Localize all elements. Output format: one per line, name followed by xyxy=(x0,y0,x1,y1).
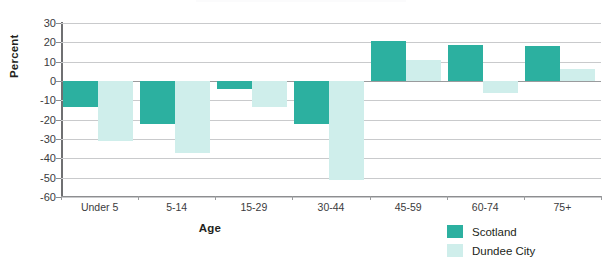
bar-scotland-60-74 xyxy=(448,45,483,81)
x-axis-label-5-14: 5-14 xyxy=(166,201,187,213)
legend-item-scotland: Scotland xyxy=(447,222,535,241)
bar-dundee-city-60-74 xyxy=(483,81,518,93)
y-tick-label-20: 20 xyxy=(4,36,56,48)
y-tick-label-10: 10 xyxy=(4,56,56,68)
x-axis-label-15-29: 15-29 xyxy=(240,201,267,213)
bar-scotland-5-14 xyxy=(140,81,175,124)
bar-dundee-city-45-59 xyxy=(406,60,441,81)
y-tick-label--30: -30 xyxy=(4,133,56,145)
x-tick-mark-6 xyxy=(524,196,525,200)
bar-scotland-75+ xyxy=(525,46,560,81)
y-tick-label-30: 30 xyxy=(4,17,56,29)
bar-scotland-15-29 xyxy=(217,81,252,89)
x-axis-label-45-59: 45-59 xyxy=(395,201,422,213)
bar-dundee-city-under-5 xyxy=(98,81,133,141)
bar-dundee-city-15-29 xyxy=(252,81,287,107)
y-tick-label-0: 0 xyxy=(4,75,56,87)
x-axis-label-60-74: 60-74 xyxy=(472,201,499,213)
y-tick-label--50: -50 xyxy=(4,172,56,184)
chart-legend: Scotland Dundee City xyxy=(447,222,535,260)
x-axis-label-under-5: Under 5 xyxy=(81,201,118,213)
plot-area xyxy=(61,23,601,197)
x-tick-mark-4 xyxy=(370,196,371,200)
x-axis-label-30-44: 30-44 xyxy=(318,201,345,213)
legend-swatch-scotland xyxy=(447,225,463,238)
gridline-20 xyxy=(61,42,601,43)
legend-label-dundee-city: Dundee City xyxy=(472,245,535,257)
x-tick-mark-3 xyxy=(292,196,293,200)
legend-swatch-dundee-city xyxy=(447,244,463,257)
gridline-30 xyxy=(61,23,601,24)
y-tick-label--40: -40 xyxy=(4,152,56,164)
bar-dundee-city-75+ xyxy=(560,69,595,81)
bar-dundee-city-30-44 xyxy=(329,81,364,180)
x-tick-mark-5 xyxy=(447,196,448,200)
legend-label-scotland: Scotland xyxy=(472,226,517,238)
bar-scotland-under-5 xyxy=(63,81,98,107)
x-tick-mark-1 xyxy=(138,196,139,200)
y-tick-label--10: -10 xyxy=(4,94,56,106)
bar-scotland-45-59 xyxy=(371,41,406,81)
cropped-title-artifact xyxy=(196,0,406,2)
bar-scotland-30-44 xyxy=(294,81,329,124)
bar-chart: Percent 3020100-10-20-30-40-50-60 Under … xyxy=(0,0,609,267)
x-axis-line xyxy=(61,196,601,197)
x-axis-title: Age xyxy=(0,222,420,234)
y-tick-label--20: -20 xyxy=(4,114,56,126)
x-axis-label-75+: 75+ xyxy=(554,201,572,213)
bar-dundee-city-5-14 xyxy=(175,81,210,153)
legend-item-dundee-city: Dundee City xyxy=(447,241,535,260)
gridline-10 xyxy=(61,62,601,63)
y-tick-label--60: -60 xyxy=(4,191,56,203)
x-tick-mark-end xyxy=(601,196,602,200)
x-tick-mark-2 xyxy=(215,196,216,200)
x-tick-mark-0 xyxy=(61,196,62,200)
